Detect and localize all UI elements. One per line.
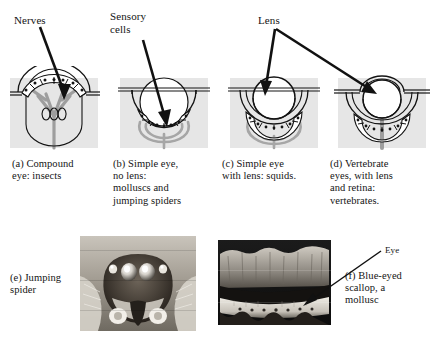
simple-eye-with-lens-drawing [222, 66, 326, 150]
photo-jumping-spider [80, 236, 196, 331]
diagram-panel-simple-no-lens [112, 66, 216, 150]
callout-sensory-cells: Sensory cells [110, 10, 146, 35]
diagram-panel-simple-with-lens [222, 66, 326, 150]
vertebrate-eye-drawing [330, 66, 434, 150]
figure-canvas: Nerves Sensory cells Lens Eye [0, 0, 439, 342]
callout-eye: Eye [385, 244, 399, 257]
photo-blue-eyed-scallop [218, 240, 331, 325]
caption-panel-c: (c) Simple eye with lens: squids. [222, 158, 328, 182]
simple-eye-no-lens-drawing [112, 66, 216, 150]
diagram-panel-compound-eye [2, 66, 106, 150]
compound-eye-drawing [2, 66, 106, 150]
callout-nerves: Nerves [14, 14, 46, 27]
caption-panel-d: (d) Vertebrate eyes, with lens and retin… [330, 158, 434, 207]
caption-panel-a: (a) Compound eye: insects [12, 158, 110, 182]
caption-panel-b: (b) Simple eye, no lens: molluscs and ju… [113, 158, 217, 207]
caption-photo-e: (e) Jumping spider [10, 272, 80, 296]
callout-lens: Lens [258, 14, 280, 27]
diagram-panel-vertebrate-eye [330, 66, 434, 150]
caption-photo-f: (f) Blue-eyed scallop, a mollusc [345, 270, 437, 307]
